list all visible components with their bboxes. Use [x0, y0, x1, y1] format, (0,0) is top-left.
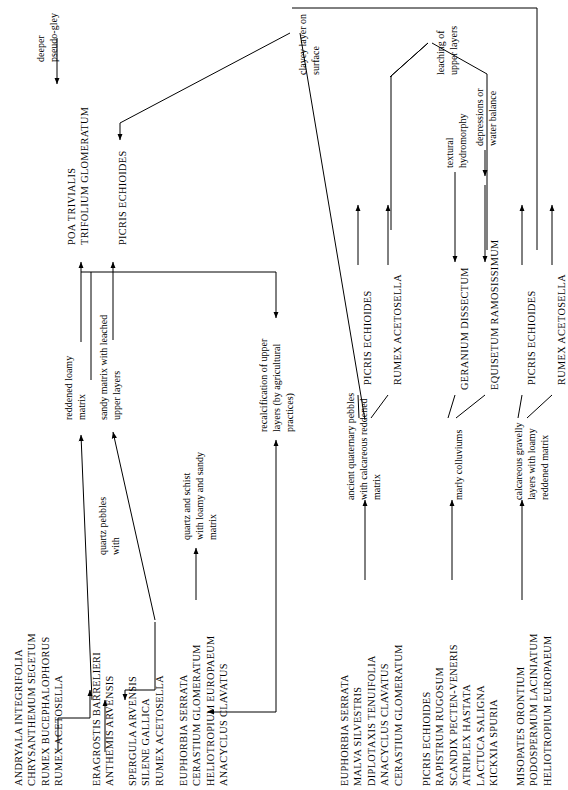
label-quartz-schist-matrix: quartz and schist with loamy and sandy m…: [180, 452, 219, 540]
species-label: HELIOTROPIUM EUROPAEUM: [204, 635, 217, 786]
species-label: ANACYCLUS CLAVATUS: [217, 635, 230, 786]
species-label: EUPHORBIA SERRATA: [338, 644, 351, 786]
species-label: SILENE GALLICA: [139, 675, 152, 786]
leaching-left-diag: [390, 43, 428, 77]
species-rumex-acetosella-right: RUMEX ACETOSELLA: [556, 274, 568, 385]
stem-calc-a: [518, 395, 522, 418]
group-spergula: SPERGULA ARVENSIS SILENE GALLICA RUMEX A…: [126, 675, 166, 786]
leaching-left-diag2: [391, 43, 428, 76]
group-euphorbia-malva: EUPHORBIA SERRATA MALVA SILVESTRIS DIPLO…: [338, 644, 405, 786]
species-label: LACTUCA SALIGNA: [474, 644, 487, 786]
group-euphorbia-left: EUPHORBIA SERRATA CERASTIUM GLOMERATUM H…: [177, 635, 231, 786]
species-label: ERAGROSTIS BARRELIERI: [90, 652, 103, 786]
species-label: HELIOTROPIUM EUROPAEUM: [541, 633, 554, 786]
diagonal-clayey-to-ancient: [300, 33, 365, 420]
species-equisetum-ramosissimum: EQUISETUM RAMOSISSIMUM: [489, 240, 501, 390]
species-label: ATRIPLEX HASTATA: [460, 644, 473, 786]
species-label: MISOPATES ORONTIUM: [514, 633, 527, 786]
species-label: CHRYSANTHEMUM SEGETUM: [25, 633, 38, 786]
stem-marly-b: [456, 395, 485, 418]
stem-marly-a: [448, 395, 455, 418]
species-label: POA TRIVIALIS: [65, 107, 78, 245]
group-eragrostis: ERAGROSTIS BARRELIERI ANTHEMIS ARVENSIS: [90, 652, 117, 786]
label-ancient-quaternary-pebbles: ancient quaternary pebbles with calcareo…: [344, 393, 383, 500]
species-label: ANACYCLUS CLAVATUS: [378, 644, 391, 786]
species-label: RAPISTRUM RUGOSUM: [433, 644, 446, 786]
diagram-canvas: deeper pseudo-gley POA TRIVIALIS TRIFOLI…: [0, 0, 568, 790]
group-poa-trifolium: POA TRIVIALIS TRIFOLIUM GLOMERATUM: [65, 107, 92, 245]
species-label: MALVA SILVESTRIS: [351, 644, 364, 786]
species-label: ANTHEMIS ARVENSIS: [103, 652, 116, 786]
label-deeper-pseudogley: deeper pseudo-gley: [34, 13, 60, 62]
species-picris-echioides-mid: PICRIS ECHIOIDES: [362, 290, 374, 385]
label-calcareous-gravelly: calcareous gravelly layers with loamy re…: [512, 423, 551, 500]
species-geranium-dissectum: GERANIUM DISSECTUM: [459, 267, 471, 390]
species-label: PICRIS ECHIOIDES: [420, 644, 433, 786]
label-depressions-water-balance: depressions or water balance: [473, 89, 499, 147]
species-label: DIPLOTAXIS TENUIFOLIA: [365, 644, 378, 786]
species-label: RUMEX BUCEPHALOPHORUS: [39, 633, 52, 786]
group-picris-rapistrum: PICRIS ECHIOIDES RAPISTRUM RUGOSUM SCAND…: [420, 644, 500, 786]
species-label: KICKXIA SPURIA: [487, 644, 500, 786]
species-label: TRIFOLIUM GLOMERATUM: [78, 107, 91, 245]
species-picris-echioides-right: PICRIS ECHIOIDES: [526, 290, 538, 385]
label-leaching-upper-layers: leaching of upper layers: [434, 26, 460, 75]
label-recalcification: recalcification of upper layers (by agri…: [257, 339, 296, 432]
arrow-clayey-to-picris-top: [120, 33, 290, 140]
label-marly-colluviums: marly colluviums: [452, 430, 465, 500]
species-label: ANDRYALA INTEGRIFOLIA: [12, 633, 25, 786]
species-label: SCANDIX PECTEN-VENERIS: [447, 644, 460, 786]
stem-calc-b: [527, 395, 552, 418]
label-reddened-loamy-matrix: reddened loamy matrix: [62, 356, 88, 420]
group-misopates: MISOPATES ORONTIUM PODOSPERMUM LACINIATU…: [514, 633, 554, 786]
label-textural-hydromorphy: textural hydromorphy: [443, 114, 469, 168]
label-sandy-matrix-leached: sandy matrix with leached upper layers: [97, 315, 123, 420]
species-rumex-acetosella-mid: RUMEX ACETOSELLA: [392, 274, 404, 385]
species-label: RUMEX ACETOSELLA: [153, 675, 166, 786]
species-label: SPERGULA ARVENSIS: [126, 675, 139, 786]
species-label: RUMEX ACETOSELLA: [52, 633, 65, 786]
group-andryala: ANDRYALA INTEGRIFOLIA CHRYSANTHEMUM SEGE…: [12, 633, 66, 786]
species-label: EUPHORBIA SERRATA: [177, 635, 190, 786]
label-quartz-pebbles-with: quartz pebbles with: [96, 497, 122, 555]
species-label: CERASTIUM GLOMERATUM: [190, 635, 203, 786]
species-picris-echioides-top: PICRIS ECHIOIDES: [117, 150, 129, 245]
species-label: PODOSPERMUM LACINIATUM: [527, 633, 540, 786]
species-label: CERASTIUM GLOMERATUM: [392, 644, 405, 786]
label-clayey-layer-on-surface: clayey layer on surface: [296, 14, 322, 75]
